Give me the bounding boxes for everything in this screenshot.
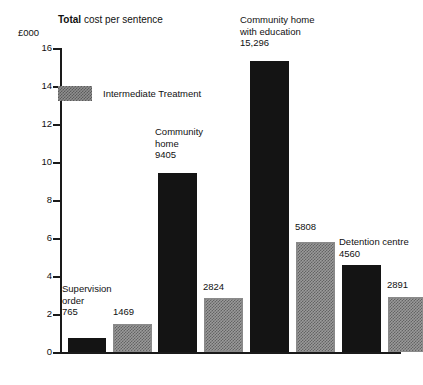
y-tick-10 [53, 162, 62, 164]
y-tick-label-0: 0 [14, 347, 52, 357]
legend: Intermediate Treatment [58, 86, 201, 101]
x-axis [60, 352, 401, 354]
legend-swatch-intermediate-treatment [58, 86, 92, 101]
bar-community-home-it [204, 298, 243, 352]
annotation-community-home-education: Community home with education 15,296 [240, 14, 370, 49]
y-tick-label-14: 14 [14, 81, 52, 91]
y-tick-label-10: 10 [14, 157, 52, 167]
annotation-detention-centre-it: 2891 [387, 279, 423, 291]
bar-supervision-order-it [113, 324, 152, 352]
y-tick-0 [53, 352, 62, 354]
bar-community-home-main [158, 173, 197, 352]
y-tick-2 [53, 314, 62, 316]
y-tick-label-4: 4 [14, 271, 52, 281]
annotation-community-home-it: 2824 [203, 281, 263, 293]
y-tick-6 [53, 238, 62, 240]
y-tick-label-6: 6 [14, 233, 52, 243]
bar-chart: £000 Total cost per sentence 16 14 12 10… [0, 0, 423, 385]
chart-title-emphasis: Total [58, 14, 81, 25]
annotation-community-home: Community home 9405 [155, 126, 235, 161]
y-tick-label-8: 8 [14, 195, 52, 205]
bar-supervision-order-main [68, 338, 106, 352]
annotation-supervision-order-it: 1469 [113, 306, 173, 318]
annotation-detention-centre: Detention centre 4560 [339, 236, 423, 259]
bar-detention-centre-main [342, 265, 381, 352]
y-tick-label-2: 2 [14, 309, 52, 319]
legend-label-intermediate-treatment: Intermediate Treatment [103, 89, 201, 99]
y-tick-4 [53, 276, 62, 278]
chart-title-rest: cost per sentence [81, 14, 163, 25]
chart-title: Total cost per sentence [58, 14, 208, 27]
y-tick-16 [53, 48, 62, 50]
bar-community-home-education-it [296, 242, 335, 352]
annotation-community-home-education-it: 5808 [295, 221, 355, 233]
y-tick-12 [53, 124, 62, 126]
y-tick-label-16: 16 [14, 43, 52, 53]
bar-community-home-education-main [250, 61, 289, 352]
y-tick-label-12: 12 [14, 119, 52, 129]
y-tick-8 [53, 200, 62, 202]
bar-detention-centre-it [388, 297, 423, 352]
y-axis-unit-label: £000 [18, 28, 39, 38]
